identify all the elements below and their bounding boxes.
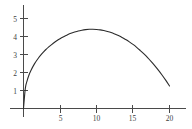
- chart-figure: 5 4 3 2 1 5 10 15 20: [0, 0, 192, 129]
- x-tick-label-5: 5: [59, 114, 63, 123]
- y-tick-label-4: 4: [13, 33, 17, 42]
- x-tick-label-20: 20: [166, 114, 174, 123]
- x-tick-label-10: 10: [93, 114, 101, 123]
- plot-area: 5 4 3 2 1 5 10 15 20: [0, 0, 192, 129]
- y-tick-label-3: 3: [13, 51, 17, 60]
- x-tick-label-15: 15: [129, 114, 137, 123]
- data-series-curve: [24, 29, 170, 108]
- y-tick-label-2: 2: [13, 69, 17, 78]
- y-tick-label-5: 5: [13, 15, 17, 24]
- y-tick-label-1: 1: [13, 87, 17, 96]
